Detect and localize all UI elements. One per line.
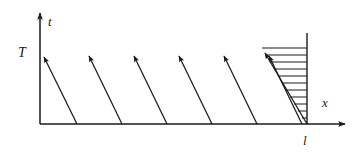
t-axis-label: t xyxy=(48,14,52,29)
t-axis-tick-label-T: T xyxy=(18,45,27,60)
characteristic-arrow-5 xyxy=(224,56,257,124)
x-axis-tick-label-l: l xyxy=(303,133,307,148)
characteristic-arrow-3 xyxy=(134,56,167,124)
characteristic-arrow-4 xyxy=(179,56,212,124)
hatched-region-group xyxy=(262,48,307,124)
characteristic-arrow-1 xyxy=(44,57,77,124)
characteristic-arrow-2 xyxy=(89,56,122,124)
hatched-region-hypotenuse xyxy=(265,53,307,124)
diagram-canvas: t x T l xyxy=(0,0,355,153)
characteristics-diagram: t x T l xyxy=(0,0,355,153)
characteristic-curves-group xyxy=(44,56,302,124)
x-axis-label: x xyxy=(321,95,328,110)
